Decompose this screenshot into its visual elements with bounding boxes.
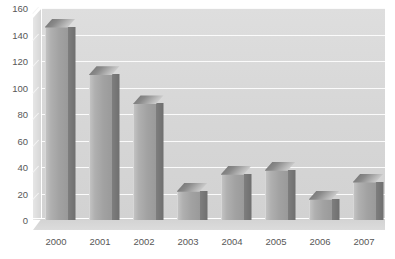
bar-side-face: [332, 199, 340, 220]
bar-side-face: [288, 170, 296, 220]
bar-front-face: [89, 74, 112, 220]
x-tick-label: 2003: [177, 236, 198, 247]
bar-front-face: [133, 103, 156, 220]
bar-column: [133, 103, 156, 220]
y-tick-label: 160: [12, 3, 28, 14]
bar-front-face: [353, 182, 376, 220]
bar-front-face: [221, 174, 244, 220]
chart-title: [0, 0, 395, 2]
x-tick-label: 2006: [309, 236, 330, 247]
x-tick-label: 2007: [353, 236, 374, 247]
bar-column: [353, 182, 376, 220]
bar-column: [89, 74, 112, 220]
gridline: [41, 61, 385, 62]
x-tick-label: 2000: [45, 236, 66, 247]
y-tick-label: 0: [23, 215, 28, 226]
bar-side-face: [68, 27, 76, 220]
bar-column: [45, 27, 68, 220]
y-tick-label: 20: [17, 188, 28, 199]
bar-side-face: [244, 174, 252, 220]
y-tick-label: 140: [12, 29, 28, 40]
y-tick-label: 60: [17, 135, 28, 146]
bar-side-face: [376, 182, 384, 220]
gridline: [41, 35, 385, 36]
bar-front-face: [177, 191, 200, 220]
bar-chart-figure: 020406080100120140160 200020012002200320…: [0, 0, 395, 259]
bar-front-face: [45, 27, 68, 220]
y-tick-label: 80: [17, 109, 28, 120]
y-axis-line: [41, 8, 42, 220]
bar-side-face: [156, 103, 164, 220]
x-axis-tick-labels: 20002001200220032004200520062007: [33, 236, 385, 254]
bar-front-face: [265, 170, 288, 220]
bar-column: [265, 170, 288, 220]
y-tick-label: 100: [12, 82, 28, 93]
x-tick-label: 2005: [265, 236, 286, 247]
bar-side-face: [112, 74, 120, 220]
bar-column: [177, 191, 200, 220]
bar-column: [221, 174, 244, 220]
plot-area: [33, 8, 385, 230]
x-tick-label: 2002: [133, 236, 154, 247]
gridline: [41, 8, 385, 9]
bar-column: [309, 199, 332, 220]
y-tick-label: 40: [17, 162, 28, 173]
x-tick-label: 2001: [89, 236, 110, 247]
bar-front-face: [309, 199, 332, 220]
x-tick-label: 2004: [221, 236, 242, 247]
bar-side-face: [200, 191, 208, 220]
y-tick-label: 120: [12, 56, 28, 67]
